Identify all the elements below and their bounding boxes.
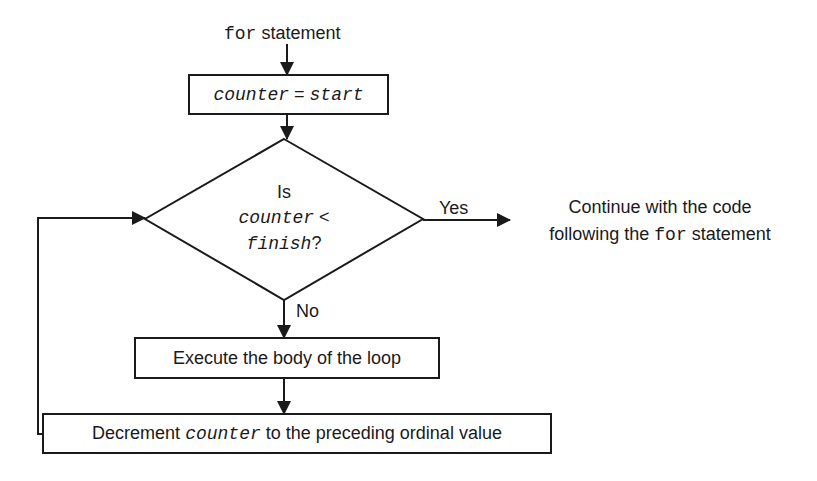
update-var: counter (185, 424, 261, 444)
body-box: Execute the body of the loop (135, 347, 439, 369)
update-pre: Decrement (92, 423, 185, 443)
yes-label: Yes (439, 197, 468, 219)
exit-for-keyword: for (654, 225, 686, 245)
decision-op: < (314, 207, 330, 227)
loop-back-arrow (38, 218, 145, 434)
init-lhs: counter (213, 85, 289, 105)
init-box: counter = start (189, 83, 388, 106)
decision-var2: finish (247, 234, 312, 254)
entry-label: for statement (224, 22, 340, 45)
decision-text: Is counter < finish? (184, 180, 384, 257)
init-rhs: start (310, 85, 364, 105)
decision-line1: Is (184, 180, 384, 205)
entry-text: statement (256, 23, 340, 43)
for-keyword: for (224, 24, 256, 44)
decision-var1: counter (238, 208, 314, 228)
no-label: No (296, 300, 319, 322)
init-op: = (289, 84, 310, 104)
exit-line1: Continue with the code (515, 194, 805, 221)
update-box: Decrement counter to the preceding ordin… (43, 422, 551, 445)
decision-q: ? (311, 233, 321, 253)
exit-line2-pre: following the (549, 224, 654, 244)
update-post: to the preceding ordinal value (261, 423, 502, 443)
exit-line2-post: statement (687, 224, 771, 244)
exit-text: Continue with the code following the for… (515, 194, 805, 249)
